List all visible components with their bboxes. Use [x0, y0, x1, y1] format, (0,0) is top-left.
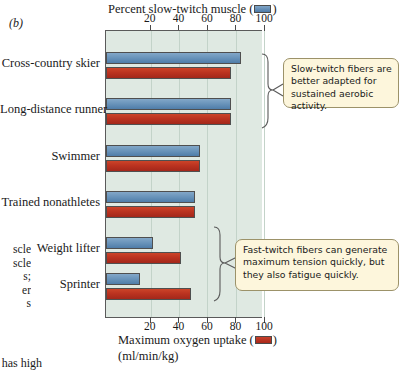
bottom-tick-label: 100	[255, 320, 272, 332]
top-axis-title-close: )	[272, 2, 276, 16]
bottom-axis-title-text: Maximum oxygen uptake (	[118, 333, 254, 347]
category-label: Swimmer	[0, 149, 100, 164]
bleed-text-line: s;	[0, 270, 31, 284]
top-tick-label: 60	[201, 12, 213, 24]
bleed-text-line: scle	[0, 243, 31, 257]
category-label: Long-distance runner	[0, 102, 100, 117]
panel-letter: (b)	[9, 16, 23, 31]
bar-slow-twitch	[106, 237, 153, 249]
bottom-axis-units: (ml/min/kg)	[118, 348, 277, 364]
bar-slow-twitch	[106, 273, 140, 285]
bleed-text-line: er	[0, 284, 31, 298]
bottom-tick-label: 80	[230, 320, 242, 332]
top-tick-label: 100	[255, 12, 272, 24]
bar-oxygen-uptake	[106, 113, 231, 125]
bar-oxygen-uptake	[106, 67, 231, 79]
bar-oxygen-uptake	[106, 206, 195, 218]
fast-twitch-callout: Fast-twitch fibers can generate maximum …	[235, 239, 399, 291]
top-tick-label: 80	[230, 12, 242, 24]
bar-oxygen-uptake	[106, 288, 191, 300]
bottom-tick-label: 40	[173, 320, 185, 332]
bar-slow-twitch	[106, 145, 200, 157]
category-label: Cross-country skier	[0, 56, 100, 71]
bleed-text-left: sclescles;ers	[0, 243, 31, 311]
bar-oxygen-uptake	[106, 252, 181, 264]
top-tick-labels: 20 40 60 80 100	[105, 12, 262, 26]
top-tick-label: 40	[173, 12, 185, 24]
slow-twitch-callout: Slow-twitch fibers are better adapted fo…	[283, 58, 399, 108]
bar-oxygen-uptake	[106, 160, 200, 172]
top-tick-label: 20	[144, 12, 156, 24]
bottom-tick-label: 20	[144, 320, 156, 332]
category-label: Trained nonathletes	[0, 195, 100, 210]
bottom-axis-title-close: )	[273, 333, 277, 347]
red-legend-swatch	[254, 332, 273, 348]
bar-slow-twitch	[106, 98, 231, 110]
bar-slow-twitch	[106, 52, 241, 64]
bottom-axis-title: Maximum oxygen uptake () (ml/min/kg)	[118, 332, 277, 364]
bottom-tick-label: 60	[201, 320, 213, 332]
bar-slow-twitch	[106, 191, 195, 203]
bleed-text-line: scle	[0, 257, 31, 271]
bleed-text-bottom: s has high	[0, 356, 42, 371]
bleed-text-line: s	[0, 297, 31, 311]
